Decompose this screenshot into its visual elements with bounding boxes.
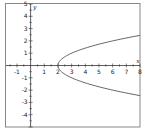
parabola-chart: -112345678-4-3-2-112345xy (0, 0, 145, 136)
y-tick-label: 5 (24, 0, 28, 7)
y-tick-label: -1 (22, 74, 28, 81)
y-tick-label: 4 (24, 12, 28, 19)
y-tick-label: 1 (24, 49, 28, 56)
y-tick-label: 2 (24, 37, 28, 44)
x-tick-label: 4 (83, 68, 87, 75)
x-tick-label: 2 (56, 68, 60, 75)
x-tick-label: 3 (70, 68, 74, 75)
y-tick-label: -3 (22, 98, 28, 105)
x-tick-label: 1 (42, 68, 46, 75)
x-tick-label: 5 (97, 68, 101, 75)
x-tick-label: 7 (124, 68, 128, 75)
x-tick-label: 8 (138, 68, 142, 75)
y-tick-label: -4 (22, 111, 28, 118)
y-tick-label: 3 (24, 25, 28, 32)
x-tick-label: 6 (111, 68, 115, 75)
x-tick-label: -1 (14, 68, 20, 75)
y-axis-label: y (32, 3, 37, 11)
y-tick-label: -2 (22, 86, 28, 93)
